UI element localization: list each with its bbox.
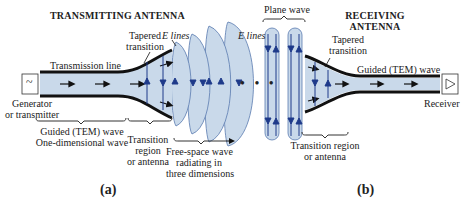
ellipsis-dots: • • • <box>240 78 277 89</box>
label-tapered-transition-a: Tapered transition <box>123 30 167 52</box>
source-symbol: ~ <box>26 77 33 88</box>
label-transition-region-a: Transition region or antenna <box>126 134 170 167</box>
label-guided-wave-a: Guided (TEM) wave One-dimensional wave <box>34 126 130 148</box>
label-guided-wave-b: Guided (TEM) wave <box>357 64 440 75</box>
panel-b-title: RECEIVING ANTENNA <box>340 10 410 32</box>
label-free-space-wave: Free-space wave radiating in three dimen… <box>166 146 232 179</box>
panel-a-title: TRANSMITTING ANTENNA <box>50 10 185 21</box>
label-transmission-line: Transmission line <box>50 60 121 71</box>
label-generator: Generator or transmitter <box>0 98 64 120</box>
caption-b: (b) <box>357 184 374 195</box>
label-transition-region-b: Transition region or antenna <box>290 140 360 162</box>
label-tapered-transition-b: Tapered transition <box>326 34 370 56</box>
label-receiver: Receiver <box>424 98 460 109</box>
label-e-lines-a: E lines <box>162 30 190 41</box>
label-e-lines-b: E lines <box>238 30 266 41</box>
label-plane-wave: Plane wave <box>264 4 310 15</box>
caption-a: (a) <box>100 184 116 195</box>
